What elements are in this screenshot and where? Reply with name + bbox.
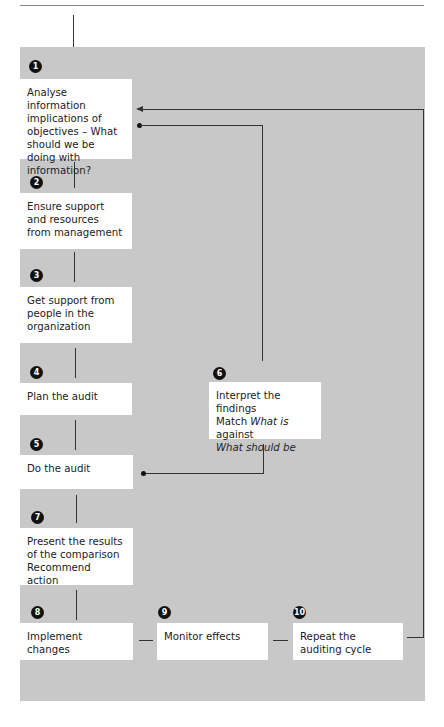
cycle-arrowhead-icon [136,106,143,112]
loop-line-top [140,125,263,126]
step-badge-10: 10 [293,606,306,619]
connector-9-10 [273,640,288,641]
step-box-10: Repeat the auditing cycle [293,623,403,660]
step-box-5: Do the audit [20,455,133,489]
step-box-6: Interpret the findings Match What is aga… [209,382,321,439]
step-badge-5: 5 [30,438,43,451]
step-badge-7: 7 [31,511,44,524]
connector-8-9 [139,640,153,641]
step-badge-1: 1 [29,60,42,73]
step-box-8: Implement changes [20,623,133,660]
step-box-9: Monitor effects [157,623,268,660]
connector-2-3 [74,252,75,282]
connector-7-8 [76,590,77,620]
step-badge-2: 2 [30,176,43,189]
step-box-7: Present the results of the comparison Re… [20,528,133,585]
step-text-2: Ensure support and resources from manage… [27,201,122,238]
step-text-4: Plan the audit [27,391,98,402]
step-text-5: Do the audit [27,463,90,474]
connector-4-5 [75,420,76,450]
step-text-6-line1: Interpret the findings [216,389,313,415]
header-rule [20,5,424,6]
step-text-9: Monitor effects [164,631,240,642]
step-box-2: Ensure support and resources from manage… [20,193,132,249]
step-box-3: Get support from people in the organizat… [20,287,132,343]
step-badge-3: 3 [30,269,43,282]
cycle-line-out [407,637,424,638]
loop-line-bottom [144,473,264,474]
connector-3-4 [75,348,76,378]
step-box-1: Analyse information implications of obje… [20,79,132,159]
cycle-line-up [423,109,424,638]
step-text-8: Implement changes [27,631,82,655]
step-badge-8: 8 [31,606,44,619]
loop-line-up [262,125,263,361]
step-text-6-line2: Match What is against [216,415,313,441]
cycle-line-back [142,109,424,110]
connector-5-7 [76,495,77,523]
step-badge-6: 6 [213,367,226,380]
step-text-3: Get support from people in the organizat… [27,295,114,332]
step-badge-4: 4 [30,366,43,379]
loop-dot-5 [141,471,146,476]
step-text-10: Repeat the auditing cycle [300,631,371,655]
step-text-7: Present the results of the comparison Re… [27,536,123,586]
step-text-6-line3: What should be [216,441,313,454]
step-box-4: Plan the audit [20,383,132,415]
step-badge-9: 9 [158,606,171,619]
